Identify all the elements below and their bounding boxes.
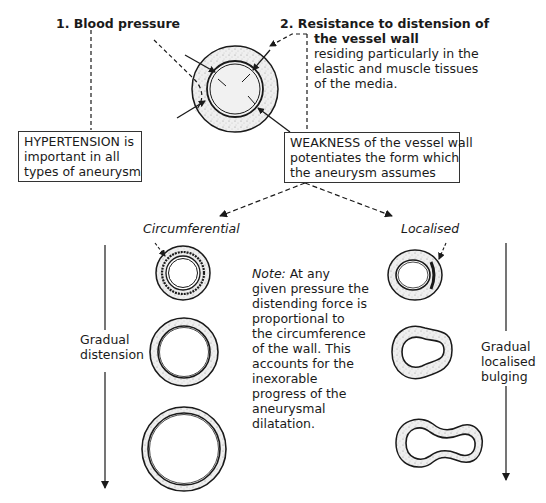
circumferential-vessel-3 <box>142 407 226 491</box>
hypertension-line-2: important in all <box>24 149 136 164</box>
note-prefix: Note: <box>252 266 286 281</box>
localised-vessel-2 <box>392 326 452 378</box>
weakness-line-2: potentiates the form which <box>290 150 454 165</box>
resistance-desc-line-1: residing particularly in the <box>280 46 489 61</box>
resistance-desc-line-3: of the media. <box>280 76 489 91</box>
note-text: Note: At any given pressure the distendi… <box>252 266 369 431</box>
note-line-2: distending force is <box>252 296 369 311</box>
circumferential-vessel-1 <box>155 243 210 300</box>
note-line-5: of the wall. This <box>252 341 369 356</box>
hypertension-box: HYPERTENSION is important in all types o… <box>18 131 142 182</box>
hypertension-line-1: HYPERTENSION is <box>24 134 136 149</box>
localised-label: Localised <box>401 221 459 236</box>
note-line-6: accounts for the <box>252 356 369 371</box>
top-vessel-cross-section <box>154 40 290 132</box>
resistance-title-line-1: 2. Resistance to distension of <box>280 16 489 31</box>
hypertension-line-3: types of aneurysm <box>24 164 136 179</box>
resistance-desc-line-2: elastic and muscle tissues <box>280 61 489 76</box>
note-line-1: given pressure the <box>252 281 369 296</box>
circumferential-vessel-2 <box>150 318 218 386</box>
note-line-3: proportional to <box>252 311 369 326</box>
resistance-title-line-2: the vessel wall <box>280 31 489 46</box>
blood-pressure-label: 1. Blood pressure <box>56 16 180 31</box>
weakness-box: WEAKNESS of the vessel wall potentiates … <box>284 132 460 183</box>
note-line-8: progress of the <box>252 386 369 401</box>
localised-vessel-3 <box>396 419 482 467</box>
localised-vessel-1 <box>388 243 446 300</box>
gradual-bulging-label: Gradual localised bulging <box>481 339 536 384</box>
weakness-line-1: WEAKNESS of the vessel wall <box>290 135 454 150</box>
note-line-4: the circumference <box>252 326 369 341</box>
note-line-10: dilatation. <box>252 416 369 431</box>
weakness-line-3: the aneurysm assumes <box>290 165 454 180</box>
note-line-9: aneurysmal <box>252 401 369 416</box>
branch-arrow-circumferential <box>220 183 305 216</box>
note-line-7: inexorable <box>252 371 369 386</box>
note-line-0: Note: At any <box>252 266 369 281</box>
branch-arrow-localised <box>305 183 392 216</box>
circumferential-label: Circumferential <box>143 221 240 236</box>
gradual-distension-label: Gradual distension <box>80 332 144 362</box>
resistance-label: 2. Resistance to distension of the vesse… <box>280 16 489 91</box>
